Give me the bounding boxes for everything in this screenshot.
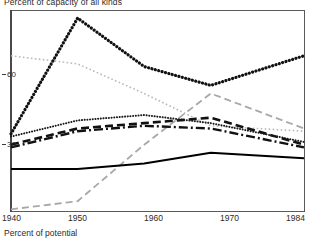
plot-area — [10, 10, 305, 212]
chart-container: Percent of capacity of all kinds 60 30 1… — [0, 0, 315, 241]
series-dash-dot-mid — [11, 126, 304, 148]
series-solid-lower — [11, 153, 304, 169]
x-tick-1940: 1940 — [2, 213, 21, 223]
series-light-dotted-declining — [11, 56, 304, 131]
series-dashed-mid — [11, 118, 304, 145]
y-tick-30: 30 — [2, 140, 16, 149]
series-gray-dashed-rising — [11, 93, 304, 209]
y-tick-60-mark — [2, 74, 6, 75]
chart-title: Percent of capacity of all kinds — [4, 0, 304, 7]
chart-footnote: Percent of potential — [4, 228, 77, 238]
x-tick-1960: 1960 — [144, 213, 163, 223]
x-tick-1970: 1970 — [220, 213, 239, 223]
x-axis-labels: 1940 1950 1960 1970 1984 — [0, 213, 315, 225]
series-canvas — [10, 10, 305, 212]
x-tick-1950: 1950 — [68, 213, 87, 223]
series-fine-dotted-mid — [11, 115, 304, 142]
y-tick-60: 60 — [2, 70, 16, 79]
x-tick-1984: 1984 — [286, 213, 305, 223]
y-tick-30-mark — [2, 144, 6, 145]
